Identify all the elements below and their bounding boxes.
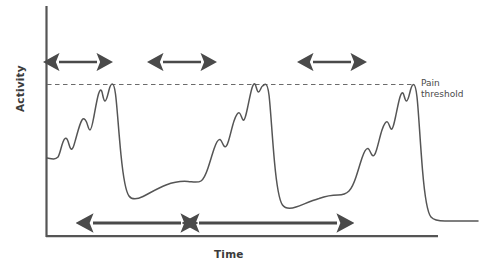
activity-pain-threshold-chart [0, 0, 480, 270]
pain-threshold-label-line1: Pain [421, 78, 463, 89]
y-axis-label: Activity [14, 65, 26, 112]
x-axis-label: Time [214, 248, 244, 260]
pain-threshold-label-line2: threshold [421, 89, 463, 100]
pain-threshold-label: Pain threshold [421, 78, 463, 100]
activity-curve [47, 84, 478, 221]
axes [46, 6, 438, 237]
